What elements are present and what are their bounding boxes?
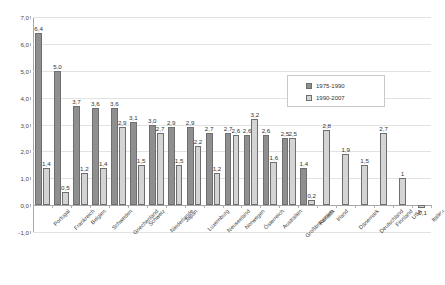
y-axis-tick [30, 97, 31, 100]
bar-value-label: 2,8 [322, 122, 331, 129]
bar-series-container: 6,41,45,00,53,71,23,61,43,62,93,11,53,02… [33, 17, 431, 232]
y-axis-tick-label: 5,0 [20, 67, 29, 74]
bar-value-label: 6,4 [34, 25, 43, 32]
bar-value-label: 2,2 [194, 138, 203, 145]
y-axis-tick-label: -1,0 [18, 229, 29, 236]
bar-value-label: 1,6 [270, 154, 279, 161]
bar-value-label: 1,4 [42, 160, 51, 167]
x-axis-tick [90, 205, 91, 208]
bar [308, 200, 315, 205]
plot-area: 7,06,05,04,03,02,01,00,0-1,0 6,41,45,00,… [33, 17, 431, 232]
bar-value-label: 2,9 [118, 119, 127, 126]
bar [225, 133, 232, 206]
legend-item-series-1: 1975-1990 [288, 80, 384, 92]
x-axis-tick [166, 205, 167, 208]
y-axis-tick [30, 177, 31, 180]
x-axis-tick [336, 205, 337, 208]
bar [100, 168, 107, 206]
bar [157, 133, 164, 206]
y-axis-tick [30, 231, 31, 234]
bar-value-label: 1,4 [300, 160, 309, 167]
bar [361, 165, 368, 205]
x-axis-tick [279, 205, 280, 208]
y-axis-tick [30, 124, 31, 127]
bar-value-label: 5,0 [53, 63, 62, 70]
y-axis-tick [30, 204, 31, 207]
bar [342, 154, 349, 205]
bar [214, 173, 221, 205]
x-axis-tick [223, 205, 224, 208]
bar [176, 165, 183, 205]
x-axis-tick [412, 205, 413, 208]
bar-value-label: 2,7 [205, 125, 214, 132]
bar [149, 125, 156, 206]
legend-label-series-2: 1990-2007 [316, 95, 345, 101]
bar-value-label: 1,2 [213, 165, 222, 172]
x-axis-tick [128, 205, 129, 208]
bar [263, 135, 270, 205]
x-axis-tick [298, 205, 299, 208]
bar [62, 192, 69, 205]
bar-value-label: 1,9 [341, 146, 350, 153]
bar [251, 119, 258, 205]
y-axis-tick-label: 1,0 [20, 175, 29, 182]
bar [81, 173, 88, 205]
bar-value-label: 2,6 [262, 127, 271, 134]
legend-swatch-series-2 [306, 95, 312, 101]
bar [300, 168, 307, 206]
legend-label-series-1: 1975-1990 [316, 83, 345, 89]
y-axis-tick [30, 16, 31, 19]
bar-value-label: 3,6 [110, 100, 119, 107]
x-axis-tick [431, 205, 432, 208]
bar-value-label: 0,5 [61, 184, 70, 191]
bar [130, 122, 137, 205]
y-axis-tick-label: 6,0 [20, 40, 29, 47]
bar-value-label: 1 [401, 170, 404, 177]
bar [399, 178, 406, 205]
x-axis-tick [147, 205, 148, 208]
x-axis-tick [71, 205, 72, 208]
x-axis-tick [393, 205, 394, 208]
bar-value-label: 2,7 [156, 125, 165, 132]
bar-value-label: 3,6 [91, 100, 100, 107]
x-axis-tick [260, 205, 261, 208]
y-axis-tick-label: 3,0 [20, 121, 29, 128]
bar [289, 138, 296, 205]
bar-value-label: 2,6 [243, 127, 252, 134]
bar [35, 33, 42, 205]
legend-swatch-series-1 [306, 83, 312, 89]
bar [323, 130, 330, 205]
y-axis-tick-label: 4,0 [20, 94, 29, 101]
x-axis-tick [374, 205, 375, 208]
bar [138, 165, 145, 205]
bar [111, 108, 118, 205]
y-axis-tick-label: 0,0 [20, 202, 29, 209]
bar-value-label: 1,5 [137, 157, 146, 164]
y-axis-tick-label: 2,0 [20, 148, 29, 155]
bar [92, 108, 99, 205]
y-axis-tick [30, 43, 31, 46]
y-axis-tick-label: 7,0 [20, 14, 29, 21]
bar [119, 127, 126, 205]
bar-value-label: 3,1 [129, 114, 138, 121]
bar-value-label: 2,5 [288, 130, 297, 137]
bar [380, 133, 387, 206]
bar-value-label: 0,2 [307, 192, 316, 199]
chart-legend: 1975-1990 1990-2007 [287, 75, 385, 107]
legend-item-series-2: 1990-2007 [288, 92, 384, 104]
bar [195, 146, 202, 205]
bar-value-label: 1,4 [99, 160, 108, 167]
bar-value-label: 3,2 [251, 111, 260, 118]
bar [73, 106, 80, 205]
bar [270, 162, 277, 205]
bar-value-label: 2,6 [232, 127, 241, 134]
x-axis-tick [33, 205, 34, 208]
bar [168, 127, 175, 205]
bar-value-label: 2,9 [186, 119, 195, 126]
x-axis-tick [185, 205, 186, 208]
bar-value-label: 1,5 [360, 157, 369, 164]
x-axis-tick [317, 205, 318, 208]
bar-value-label: 2,9 [167, 119, 176, 126]
x-axis-tick [355, 205, 356, 208]
